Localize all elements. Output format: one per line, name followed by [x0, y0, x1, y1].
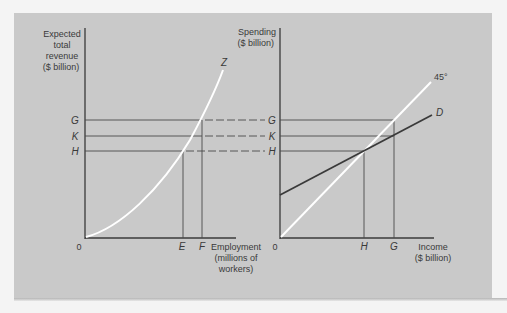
left-chart: Expected total revenue ($ billion) Z G K… — [43, 28, 265, 274]
left-ylabel-3: revenue — [46, 51, 79, 61]
right-ylabel-1: Spending — [238, 27, 276, 37]
left-xlabel-2: (millions of — [214, 253, 258, 263]
left-ylabel-1: Expected — [43, 29, 81, 39]
left-xlabel-3: workers) — [218, 264, 254, 274]
diagram-svg: Expected total revenue ($ billion) Z G K… — [0, 0, 507, 313]
label-D: D — [436, 107, 443, 118]
forty-five-degree-line — [281, 82, 431, 237]
right-tick-xH: H — [360, 241, 368, 252]
left-ylabel-4: ($ billion) — [43, 62, 80, 72]
z-label: Z — [220, 57, 228, 68]
right-chart: Spending ($ billion) 45° D G K H 0 H G I… — [237, 27, 451, 263]
left-xlabel-1: Employment — [211, 242, 262, 252]
right-origin: 0 — [272, 242, 277, 252]
left-ylabel-2: total — [53, 40, 70, 50]
right-tick-K: K — [269, 131, 277, 142]
right-ylabel-2: ($ billion) — [237, 38, 274, 48]
demand-line-D — [280, 115, 432, 195]
left-tick-G: G — [71, 115, 79, 126]
label-45: 45° — [434, 72, 448, 82]
right-tick-xG: G — [390, 241, 398, 252]
right-xlabel-1: Income — [418, 242, 448, 252]
left-origin: 0 — [76, 242, 81, 252]
right-tick-H: H — [268, 146, 276, 157]
right-tick-G: G — [268, 115, 276, 126]
left-tick-K: K — [72, 131, 80, 142]
left-tick-H: H — [71, 146, 79, 157]
left-tick-F: F — [199, 241, 206, 252]
left-tick-E: E — [179, 241, 186, 252]
right-xlabel-2: ($ billion) — [415, 253, 452, 263]
